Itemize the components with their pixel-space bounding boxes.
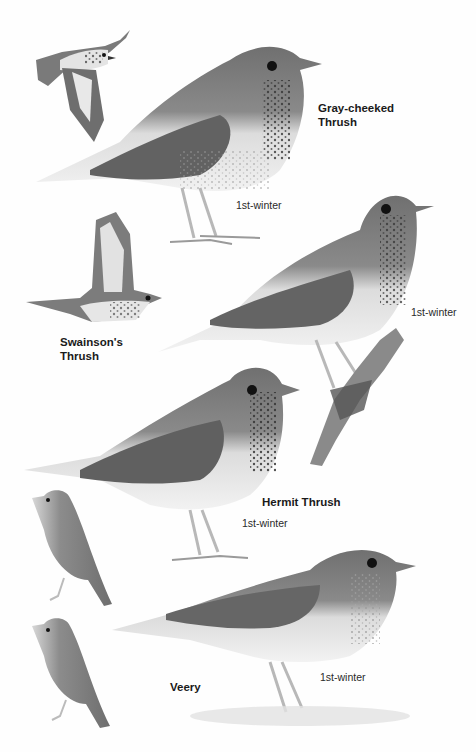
- illustration-plate: Gray-cheeked Thrush 1st-winter Swainson'…: [0, 0, 476, 752]
- veery-label: Veery: [170, 680, 201, 694]
- swainsons-label: Swainson's Thrush: [60, 335, 123, 363]
- veery-small-figure: [32, 618, 110, 728]
- species-name-line1: Swainson's: [60, 335, 123, 349]
- hermit-small-figure: [32, 490, 112, 606]
- branch: [310, 328, 404, 466]
- gray-cheeked-label: Gray-cheeked Thrush: [318, 101, 394, 129]
- veery-age-label: 1st-winter: [320, 670, 366, 684]
- hermit-age-label: 1st-winter: [242, 516, 288, 530]
- veery-perched-figure: [112, 550, 416, 726]
- hermit-label: Hermit Thrush: [262, 495, 341, 509]
- thrush-illustrations: [0, 0, 476, 752]
- swainsons-perched-figure: [158, 196, 434, 388]
- gray-cheeked-age-label: 1st-winter: [236, 198, 282, 212]
- species-name-line2: Thrush: [318, 115, 394, 129]
- gray-cheeked-flight-figure: [36, 30, 130, 142]
- species-name-line1: Gray-cheeked: [318, 101, 394, 115]
- swainsons-age-label: 1st-winter: [411, 305, 457, 319]
- species-name-line2: Thrush: [60, 349, 123, 363]
- swainsons-flight-figure: [26, 212, 162, 322]
